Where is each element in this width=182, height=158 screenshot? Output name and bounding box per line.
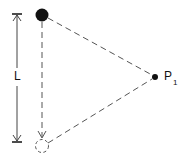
sight-line-top bbox=[48, 18, 152, 75]
point-label-subscript: 1 bbox=[173, 78, 177, 87]
diagram-canvas bbox=[0, 0, 182, 158]
final-mass-dashed-circle bbox=[36, 140, 49, 153]
point-p1-dot bbox=[152, 74, 158, 80]
point-label-main: P bbox=[164, 69, 172, 83]
point-label: P1 bbox=[164, 70, 177, 82]
length-label: L bbox=[13, 70, 22, 82]
fall-path-arrow bbox=[38, 22, 46, 138]
initial-mass-circle bbox=[36, 9, 49, 22]
sight-line-bottom bbox=[48, 79, 152, 143]
